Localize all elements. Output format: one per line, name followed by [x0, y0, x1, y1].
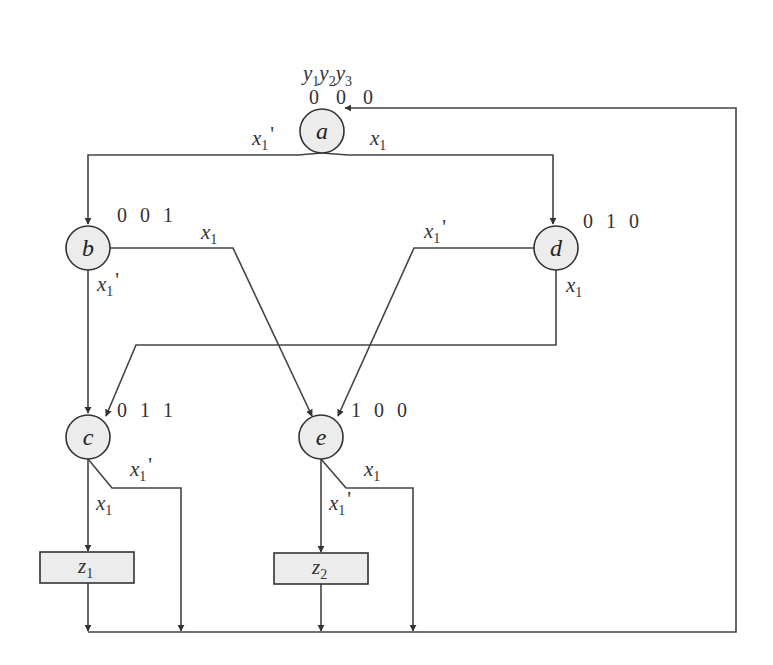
cond-d-c: x1: [565, 273, 582, 300]
cond-c-z1: x1: [95, 491, 112, 518]
state-a: a 0 0 0: [300, 86, 375, 153]
state-b-code: 0 0 1: [117, 204, 177, 226]
cond-e-return: x1: [363, 457, 380, 484]
state-d-label: d: [550, 235, 563, 261]
output-z1: z1: [40, 552, 134, 583]
cond-a-b: x1': [251, 122, 274, 153]
state-e-code: 1 0 0: [351, 399, 411, 421]
state-e-label: e: [316, 424, 327, 450]
state-a-code: 0 0 0: [309, 86, 375, 108]
return-bus-to-a: [88, 108, 736, 632]
edge-e-to-return: [321, 459, 413, 631]
asm-chart: y1y2y3 a 0 0 0 b 0 0 1 d 0 1 0 c: [0, 0, 773, 665]
cond-d-e: x1': [423, 215, 446, 246]
state-variables-header: y1y2y3: [301, 61, 352, 89]
cond-c-return: x1': [129, 453, 152, 484]
cond-a-d: x1: [369, 126, 386, 153]
cond-b-e: x1: [200, 220, 217, 247]
edge-d-to-c: [106, 270, 556, 416]
state-c: c 0 1 1: [66, 399, 177, 459]
state-d: d 0 1 0: [534, 210, 643, 270]
state-d-code: 0 1 0: [583, 210, 643, 232]
state-b-label: b: [82, 235, 94, 261]
edge-a-to-d: [322, 153, 553, 224]
cond-b-c: x1': [96, 268, 119, 299]
output-z2: z2: [274, 553, 368, 584]
cond-e-z2: x1': [328, 487, 351, 518]
state-e: e 1 0 0: [299, 399, 411, 459]
edge-c-to-return: [88, 459, 181, 631]
edge-d-to-e: [338, 248, 534, 416]
state-c-code: 0 1 1: [117, 399, 177, 421]
state-a-label: a: [316, 118, 328, 144]
edge-b-to-e: [110, 248, 312, 416]
state-c-label: c: [83, 424, 94, 450]
state-b: b 0 0 1: [66, 204, 177, 270]
